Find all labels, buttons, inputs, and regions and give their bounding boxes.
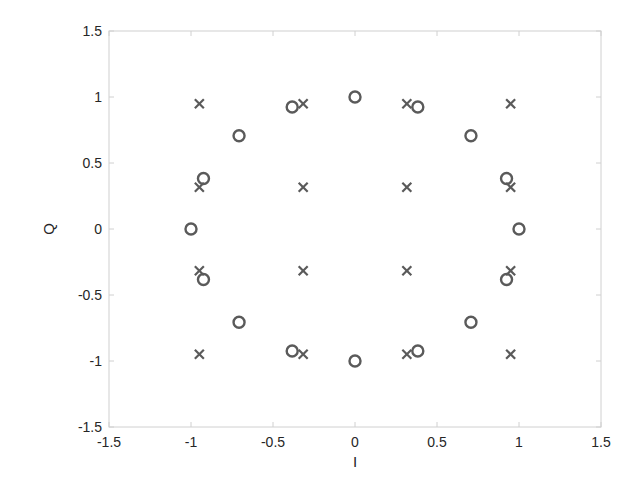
y-tick-label: 0.5 (83, 155, 103, 171)
x-tick-label: 1 (515, 434, 523, 450)
y-tick-label: 1 (94, 89, 102, 105)
x-tick-label: -1.5 (97, 434, 121, 450)
y-tick-label: -1.5 (78, 419, 102, 435)
constellation-chart: -1.5-1-0.500.511.5 -1.5-1-0.500.511.5 I … (0, 0, 644, 498)
y-tick-label: -0.5 (78, 287, 102, 303)
y-tick-label: -1 (90, 353, 103, 369)
y-tick-label: 0 (94, 221, 102, 237)
x-tick-label: -1 (185, 434, 198, 450)
y-axis-label: Q (40, 223, 57, 235)
x-tick-label: -0.5 (261, 434, 285, 450)
x-tick-label: 0 (351, 434, 359, 450)
x-tick-label: 0.5 (427, 434, 447, 450)
y-tick-label: 1.5 (83, 23, 103, 39)
x-tick-label: 1.5 (591, 434, 611, 450)
x-axis-label: I (353, 453, 357, 470)
